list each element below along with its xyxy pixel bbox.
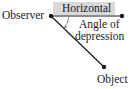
horizontal-label: Horizontal — [62, 2, 111, 14]
observer-point-icon — [49, 14, 53, 18]
angle-arrow-icon — [64, 25, 67, 28]
angle-label-line2: depression — [75, 30, 124, 42]
horizontal-end-point-icon — [120, 14, 124, 18]
object-point-icon — [102, 65, 106, 69]
observer-label: Observer — [2, 9, 44, 21]
object-label: Object — [97, 73, 128, 85]
angle-label-line1: Angle of — [79, 18, 120, 30]
